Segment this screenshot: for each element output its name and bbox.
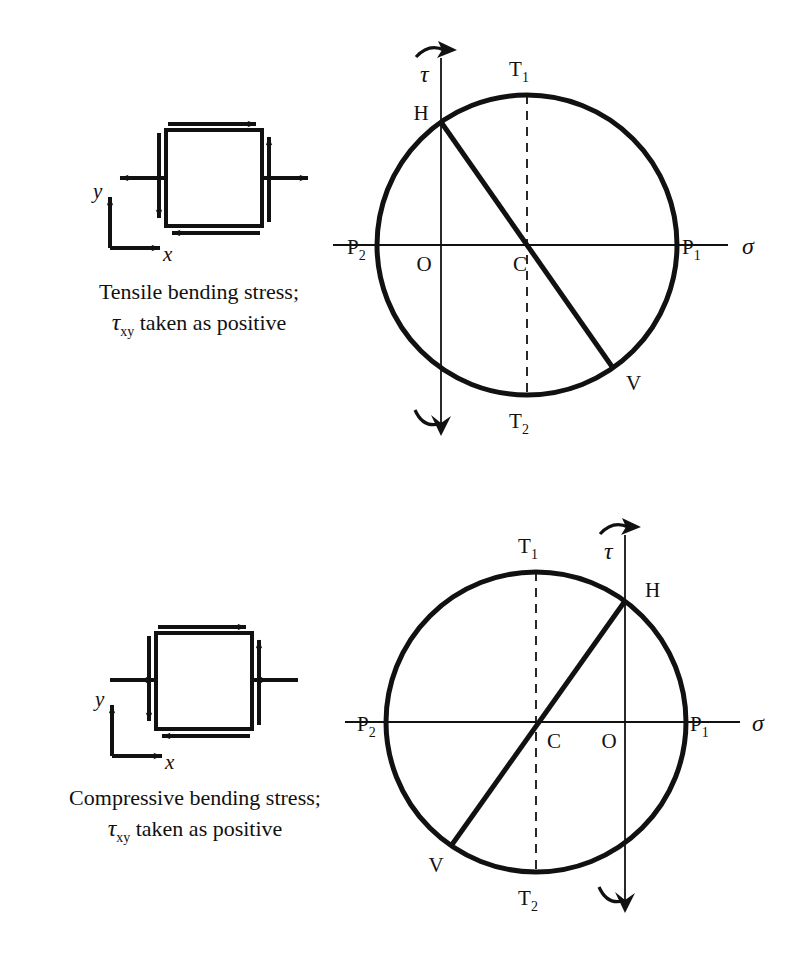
caption-line2: τxy taken as positive <box>112 309 287 339</box>
mohr-circle-figure: y x Tensile bending stress; τxy taken as… <box>0 0 799 960</box>
mohr-circle-tensile: σ τ T1 T2 <box>333 41 755 437</box>
caption-tau-subscript: xy <box>116 830 130 845</box>
stress-element-compressive: y x <box>93 627 298 774</box>
sigma-axis-label-top: σ <box>742 233 755 259</box>
caption-compressive: Compressive bending stress; τxy taken as… <box>69 785 321 845</box>
caption-line2-rest: taken as positive <box>130 816 282 841</box>
rotation-arrow-top-cw <box>600 518 641 535</box>
panel-bottom: y x Compressive bending stress; τxy take… <box>69 518 765 914</box>
rotation-arrow-top-cw <box>416 41 457 58</box>
label-V-bottom: V <box>428 853 443 877</box>
caption-line1: Tensile bending stress; <box>99 279 299 304</box>
element-square <box>166 130 262 226</box>
label-H-top: H <box>413 101 428 125</box>
element-axis-x-label: x <box>164 750 175 774</box>
tau-axis-label-bottom: τ <box>604 538 614 564</box>
label-V-top: V <box>626 371 641 395</box>
label-O-bottom: O <box>601 729 616 753</box>
element-axis-y-label: y <box>91 179 103 203</box>
label-T2-bottom: T2 <box>518 886 538 914</box>
figure-root: y x Tensile bending stress; τxy taken as… <box>0 0 799 960</box>
element-square <box>156 633 252 729</box>
caption-line2: τxy taken as positive <box>108 815 283 845</box>
sigma-axis-label-bottom: σ <box>752 710 765 736</box>
tau-axis-label-top: τ <box>420 61 430 87</box>
label-T1-top: T1 <box>509 57 529 85</box>
caption-tau-subscript: xy <box>120 324 134 339</box>
label-C-bottom: C <box>547 729 561 753</box>
hv-diameter-bottom <box>451 601 625 846</box>
mohr-circle-compressive: σ τ T1 T2 <box>345 518 765 914</box>
label-P1-bottom: P1 <box>690 712 709 740</box>
label-T1-bottom: T1 <box>518 534 538 562</box>
label-P2-bottom: P2 <box>357 712 376 740</box>
panel-top: y x Tensile bending stress; τxy taken as… <box>91 41 755 437</box>
element-axis-x-label: x <box>162 242 173 266</box>
caption-tensile: Tensile bending stress; τxy taken as pos… <box>99 279 299 339</box>
caption-line2-rest: taken as positive <box>134 310 286 335</box>
label-P2-top: P2 <box>347 235 366 263</box>
rotation-arrow-bottom-down <box>415 410 451 436</box>
label-T2-top: T2 <box>509 409 529 437</box>
element-axis-y-label: y <box>93 687 105 711</box>
label-O-top: O <box>416 252 431 276</box>
rotation-arrow-bottom-down <box>599 887 635 913</box>
stress-element-tensile: y x <box>91 124 308 266</box>
caption-line1: Compressive bending stress; <box>69 785 321 810</box>
label-P1-top: P1 <box>682 235 701 263</box>
label-H-bottom: H <box>645 578 660 602</box>
label-C-top: C <box>513 252 527 276</box>
